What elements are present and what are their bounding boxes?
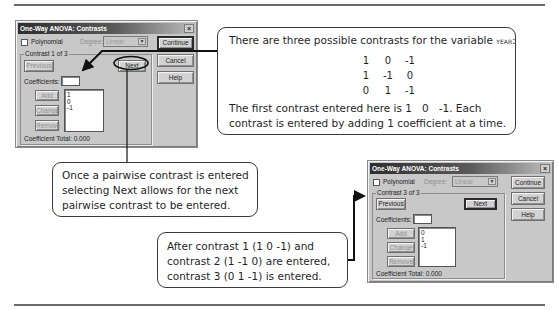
- previous-button[interactable]: Previous: [24, 60, 54, 72]
- continue-button[interactable]: Continue: [511, 176, 545, 189]
- variable-name: year: [496, 37, 512, 46]
- continue-label: Continue: [515, 179, 541, 186]
- coefficient-total-text: Coefficient Total:: [24, 135, 72, 142]
- dialog-title: One-Way ANOVA: Contrasts: [20, 25, 107, 32]
- coefficients-input[interactable]: [61, 76, 80, 86]
- degree-select[interactable]: Linear ▼: [452, 176, 498, 187]
- close-button[interactable]: ×: [184, 24, 194, 33]
- callout-line: contrast 3 (0 1 -1) is entered.: [167, 270, 322, 282]
- matrix-cell: -1: [402, 85, 418, 96]
- coefficient-total-label: Coefficient Total: 0.000: [376, 270, 442, 277]
- next-label: Next: [125, 62, 138, 69]
- coefficients-label: Coefficients:: [24, 78, 60, 85]
- add-label: Add: [41, 92, 53, 99]
- polynomial-checkbox[interactable]: [21, 39, 28, 46]
- polynomial-label: Polynomial: [383, 178, 415, 185]
- intro-line-1: There are three possible contrasts for t…: [229, 34, 516, 46]
- continue-label: Continue: [162, 39, 188, 46]
- help-label: Help: [521, 211, 534, 218]
- help-label: Help: [169, 74, 182, 81]
- matrix-cell: 1: [358, 70, 374, 81]
- next-explanation-callout: Once a pairwise contrast is entered sele…: [52, 162, 258, 217]
- callout-line: pairwise contrast to be entered.: [62, 199, 230, 211]
- degree-label: Degree:: [424, 178, 447, 185]
- list-item[interactable]: -1: [421, 243, 453, 250]
- coefficient-total-value: 0.000: [426, 270, 442, 277]
- top-rule: [14, 4, 545, 6]
- add-button[interactable]: Add: [35, 90, 59, 101]
- contrast-group: Contrast 1 of 3 Previous Next Coefficien…: [20, 54, 152, 145]
- previous-label: Previous: [378, 200, 403, 207]
- matrix-cell: 0: [358, 85, 374, 96]
- next-label: Next: [474, 200, 487, 207]
- help-button[interactable]: Help: [511, 208, 545, 221]
- intro-colon: :: [512, 34, 516, 46]
- coefficients-list[interactable]: 1 0 -1: [64, 89, 104, 132]
- arrow-to-contrast-counter-icon: [348, 196, 364, 260]
- close-icon: ×: [187, 25, 191, 32]
- contrast-group: Contrast 3 of 3 Previous Next Coefficien…: [372, 193, 505, 279]
- dialog-title-bar: One-Way ANOVA: Contrasts ×: [370, 163, 551, 174]
- dialog-title: One-Way ANOVA: Contrasts: [372, 165, 459, 172]
- remove-label: Remove: [36, 122, 60, 129]
- list-item[interactable]: -1: [67, 105, 101, 112]
- next-button[interactable]: Next: [118, 60, 146, 72]
- chevron-down-icon: ▼: [138, 38, 146, 45]
- bottom-rule: [14, 304, 545, 306]
- matrix-cell: 1: [380, 85, 396, 96]
- degree-select[interactable]: Linear ▼: [103, 36, 148, 47]
- previous-label: Previous: [26, 62, 51, 69]
- coefficients-label: Coefficients:: [376, 216, 412, 223]
- matrix-cell: -1: [402, 55, 418, 66]
- help-button[interactable]: Help: [157, 71, 194, 84]
- add-label: Add: [395, 230, 407, 237]
- contrast-counter: Contrast 1 of 3: [24, 50, 69, 57]
- change-button[interactable]: Change: [35, 105, 59, 116]
- cancel-label: Cancel: [165, 57, 185, 64]
- callout-line: Once a pairwise contrast is entered: [62, 169, 249, 181]
- coefficient-total-value: 0.000: [74, 135, 90, 142]
- change-label: Change: [390, 244, 413, 251]
- cancel-button[interactable]: Cancel: [157, 54, 194, 67]
- intro-line-after-2: contrast is entered by adding 1 coeffici…: [229, 117, 506, 129]
- intro-line-after-1: The first contrast entered here is 1 0 -…: [229, 102, 481, 114]
- degree-label: Degree:: [80, 38, 103, 45]
- dialog-title-bar: One-Way ANOVA: Contrasts ×: [18, 23, 195, 34]
- previous-button[interactable]: Previous: [376, 198, 406, 210]
- contrasts-intro-callout: There are three possible contrasts for t…: [217, 27, 516, 135]
- polynomial-label: Polynomial: [31, 38, 63, 45]
- contrasts-dialog-1: One-Way ANOVA: Contrasts × Polynomial De…: [15, 20, 198, 148]
- close-icon: ×: [543, 165, 547, 172]
- continue-button[interactable]: Continue: [157, 36, 194, 50]
- coefficients-list[interactable]: 0 1 -1: [418, 227, 456, 267]
- coefficient-total-label: Coefficient Total: 0.000: [24, 135, 90, 142]
- cancel-label: Cancel: [518, 195, 538, 202]
- cancel-button[interactable]: Cancel: [511, 192, 545, 205]
- matrix-cell: 1: [358, 55, 374, 66]
- add-button[interactable]: Add: [387, 228, 415, 239]
- matrix-cell: -1: [380, 70, 396, 81]
- contrast-counter: Contrast 3 of 3: [376, 189, 421, 196]
- coefficients-input[interactable]: [413, 214, 432, 224]
- polynomial-checkbox[interactable]: [373, 179, 380, 186]
- close-button[interactable]: ×: [540, 164, 550, 173]
- matrix-cell: 0: [380, 55, 396, 66]
- matrix-cell: 0: [402, 70, 418, 81]
- degree-value: Linear: [455, 178, 473, 185]
- callout-line: After contrast 1 (1 0 -1) and: [167, 240, 314, 252]
- change-label: Change: [36, 107, 59, 114]
- contrasts-dialog-2: One-Way ANOVA: Contrasts × Polynomial De…: [367, 160, 554, 283]
- chevron-down-icon: ▼: [488, 178, 496, 185]
- remove-button[interactable]: Remove: [35, 120, 59, 131]
- callout-line: contrast 2 (1 -1 0) are entered,: [167, 255, 330, 267]
- intro-text: There are three possible contrasts for t…: [229, 34, 496, 46]
- remove-label: Remove: [389, 258, 413, 265]
- next-button[interactable]: Next: [464, 198, 497, 210]
- remove-button[interactable]: Remove: [387, 256, 415, 267]
- change-button[interactable]: Change: [387, 242, 415, 253]
- degree-value: Linear: [106, 38, 124, 45]
- callout-line: selecting Next allows for the next: [62, 184, 238, 196]
- contrast-3-callout: After contrast 1 (1 0 -1) and contrast 2…: [157, 232, 348, 288]
- coefficient-total-text: Coefficient Total:: [376, 270, 424, 277]
